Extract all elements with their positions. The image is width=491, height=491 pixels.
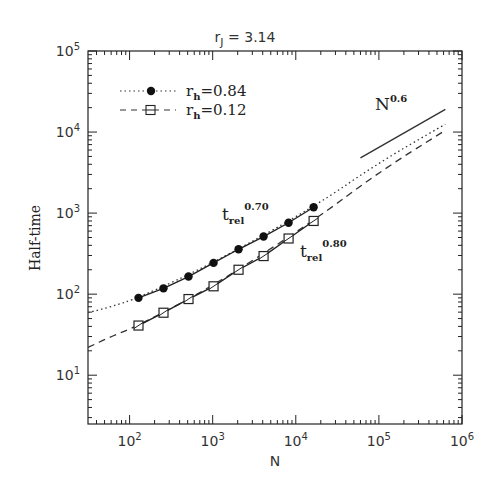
legend: rh=0.84rh=0.12: [120, 82, 246, 121]
y-tick-label: 103: [56, 203, 80, 221]
legend-circle-marker: [147, 87, 155, 95]
x-tick-label: 102: [117, 431, 141, 449]
y-tick-label: 102: [56, 284, 80, 302]
chart-title: rJ = 3.14: [215, 29, 276, 49]
filled-circle-marker: [309, 203, 317, 211]
title-rest: = 3.14: [224, 29, 276, 45]
chart: rJ = 3.14 102103104105106101102103104105…: [0, 0, 491, 491]
filled-circle-marker: [209, 259, 217, 267]
x-axis-label: N: [270, 453, 280, 469]
svg-text:rJ = 3.14: rJ = 3.14: [215, 29, 276, 49]
annotation-label: trel0.80: [300, 238, 347, 263]
dotted-fit-curve: [88, 124, 445, 313]
y-tick-label: 101: [56, 365, 80, 383]
reference-slope-line: [360, 109, 445, 157]
legend-label: rh=0.84: [186, 82, 246, 102]
filled-circle-marker: [184, 272, 192, 280]
filled-circle-marker: [259, 232, 267, 240]
annotation-label: trel0.70: [222, 201, 269, 226]
plot-frame: [88, 51, 462, 424]
filled-circle-marker: [134, 294, 142, 302]
x-tick-label: 105: [367, 431, 391, 449]
y-tick-label: 105: [56, 41, 80, 59]
filled-circle-marker: [234, 245, 242, 253]
filled-circle-marker: [284, 219, 292, 227]
y-axis-label: Half-time: [27, 205, 43, 271]
x-tick-label: 106: [450, 431, 474, 449]
y-tick-label: 104: [56, 122, 80, 140]
annotation-label: N0.6: [375, 93, 407, 114]
x-tick-label: 103: [201, 431, 225, 449]
filled-circle-marker: [159, 284, 167, 292]
x-tick-label: 104: [284, 431, 308, 449]
legend-label: rh=0.12: [186, 101, 246, 121]
axes: 102103104105106101102103104105: [56, 41, 474, 449]
annotations: trel0.70trel0.80N0.6: [222, 93, 445, 263]
